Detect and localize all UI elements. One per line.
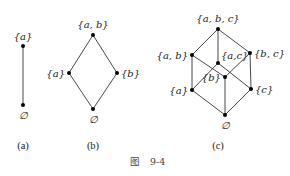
edge-ab-a <box>69 35 93 73</box>
node-c <box>249 87 253 91</box>
node-ac <box>216 61 220 65</box>
caption-b: (b) <box>87 140 100 152</box>
figure-caption-number: 9-4 <box>150 156 165 167</box>
node-empty <box>91 107 95 111</box>
edge-c-empty <box>225 89 251 115</box>
edge-a-empty <box>192 90 225 115</box>
diagram-a: {a} ∅ (a) <box>14 31 33 152</box>
diagram-c: {a, b, c} {a, b} {a,c} {b, c} {b} {a} {c… <box>157 13 286 152</box>
caption-a: (a) <box>17 140 29 152</box>
node-empty <box>21 103 25 107</box>
node-a <box>190 88 194 92</box>
node-empty <box>223 113 227 117</box>
node-a <box>67 71 71 75</box>
label-ac: {a,c} <box>221 50 248 61</box>
label-empty: ∅ <box>221 120 231 131</box>
node-b <box>223 75 227 79</box>
label-a: {a} <box>14 31 33 42</box>
label-empty: ∅ <box>19 110 29 121</box>
diagram-b: {a, b} {a} {b} ∅ (b) <box>46 19 140 152</box>
label-b: {b} <box>202 72 221 83</box>
figure-caption: 图 9-4 <box>130 156 165 167</box>
label-bc: {b, c} <box>254 48 285 59</box>
node-ab <box>190 53 194 57</box>
node-bc <box>248 51 252 55</box>
node-ab <box>91 33 95 37</box>
label-a: {a} <box>46 68 65 79</box>
figure-caption-prefix: 图 <box>130 156 140 167</box>
edge-b-empty <box>93 73 117 109</box>
label-ab: {a, b} <box>77 19 108 30</box>
hasse-diagrams-figure: {a} ∅ (a) {a, b} {a} {b} ∅ (b) <box>0 0 290 176</box>
edge-bc-c <box>250 53 251 89</box>
label-a: {a} <box>169 85 188 96</box>
node-a <box>21 44 25 48</box>
node-abc <box>216 27 220 31</box>
caption-c: (c) <box>212 140 224 152</box>
label-abc: {a, b, c} <box>196 13 239 24</box>
edge-abc-ab <box>192 29 218 55</box>
node-b <box>115 71 119 75</box>
label-c: {c} <box>255 84 273 95</box>
label-empty: ∅ <box>89 114 99 125</box>
edge-ab-b <box>93 35 117 73</box>
edge-a-empty <box>69 73 93 109</box>
label-b: {b} <box>121 68 140 79</box>
label-ab: {a, b} <box>157 50 188 61</box>
